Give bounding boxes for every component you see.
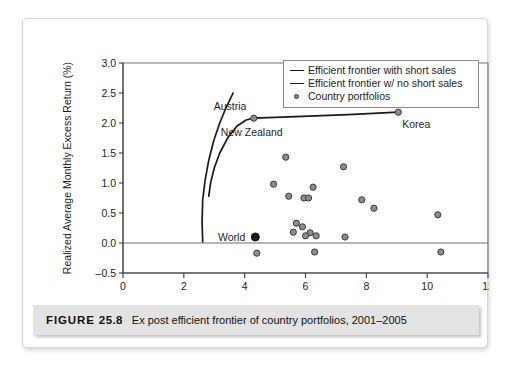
y-tick-label: 0.0 bbox=[101, 237, 116, 249]
x-tick-label: 6 bbox=[303, 280, 309, 291]
data-point bbox=[270, 181, 276, 187]
data-point bbox=[395, 109, 401, 115]
y-tick-label: 0.5 bbox=[101, 207, 116, 219]
legend-label: Efficient frontier with short sales bbox=[308, 64, 456, 77]
legend-item-frontier-short-sales: Efficient frontier with short sales bbox=[289, 64, 472, 77]
data-point bbox=[302, 233, 308, 239]
annotation-world: World bbox=[218, 231, 245, 243]
chart-legend: Efficient frontier with short sales Effi… bbox=[283, 60, 479, 108]
y-tick-label: 1.0 bbox=[101, 177, 116, 189]
data-point bbox=[299, 224, 305, 230]
data-point bbox=[251, 115, 257, 121]
frontier-line bbox=[202, 93, 233, 242]
x-tick-label: 10 bbox=[421, 280, 433, 291]
y-tick-label: 3.0 bbox=[101, 57, 116, 69]
data-point bbox=[371, 205, 377, 211]
legend-item-country-portfolios: Country portfolios bbox=[289, 90, 472, 103]
data-point bbox=[359, 197, 365, 203]
legend-label: Efficient frontier w/ no short sales bbox=[308, 77, 462, 90]
data-point-world bbox=[251, 233, 259, 241]
x-tick-label: 4 bbox=[242, 280, 248, 291]
legend-circle-icon bbox=[289, 94, 304, 99]
data-point bbox=[340, 164, 346, 170]
y-tick-label: 2.5 bbox=[101, 87, 116, 99]
figure-container: –0.50.00.51.01.52.02.53.0024681012Standa… bbox=[22, 18, 488, 348]
y-tick-label: 2.0 bbox=[101, 117, 116, 129]
data-point bbox=[254, 250, 260, 256]
annotation-korea: Korea bbox=[402, 118, 430, 130]
legend-line-icon bbox=[289, 70, 304, 71]
y-axis-title: Realized Average Monthly Excess Return (… bbox=[61, 62, 73, 274]
legend-item-frontier-no-short-sales: Efficient frontier w/ no short sales bbox=[289, 77, 472, 90]
legend-label: Country portfolios bbox=[308, 90, 390, 103]
annotation-new-zealand: New Zealand bbox=[221, 126, 283, 138]
figure-caption-number: 25.8 bbox=[99, 314, 123, 326]
annotation-austria: Austria bbox=[214, 100, 247, 112]
y-tick-label: 1.5 bbox=[101, 147, 116, 159]
data-point bbox=[286, 193, 292, 199]
x-tick-label: 8 bbox=[363, 280, 369, 291]
data-point bbox=[310, 184, 316, 190]
figure-caption-text: Ex post efficient frontier of country po… bbox=[132, 314, 407, 326]
data-point bbox=[435, 212, 441, 218]
data-point bbox=[342, 234, 348, 240]
x-tick-label: 12 bbox=[482, 280, 489, 291]
data-point bbox=[313, 233, 319, 239]
data-point bbox=[283, 154, 289, 160]
data-point bbox=[312, 249, 318, 255]
legend-line-icon bbox=[289, 83, 304, 84]
x-tick-label: 0 bbox=[120, 280, 126, 291]
figure-caption-bar: FIGURE 25.8 Ex post efficient frontier o… bbox=[33, 305, 479, 335]
data-point bbox=[305, 195, 311, 201]
figure-caption-label: FIGURE bbox=[46, 314, 95, 326]
frontier-line bbox=[209, 112, 398, 196]
data-point bbox=[290, 229, 296, 235]
x-tick-label: 2 bbox=[181, 280, 187, 291]
y-tick-label: –0.5 bbox=[96, 267, 117, 279]
data-point bbox=[293, 220, 299, 226]
data-point bbox=[438, 249, 444, 255]
